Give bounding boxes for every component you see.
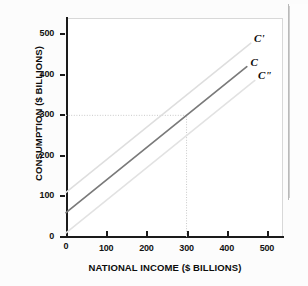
curve-label-c-double-prime: C" [258, 69, 271, 81]
x-tick-mark-400 [227, 231, 229, 237]
x-tick-label-100: 100 [90, 243, 122, 253]
y-tick-mark-0 [60, 236, 65, 238]
y-tick-mark-400 [60, 74, 65, 76]
figure-page: 5004003002001000 0100200300400500 C'CC" … [0, 0, 308, 286]
y-tick-label-0: 0 [24, 231, 54, 241]
x-axis-title: NATIONAL INCOME ($ BILLIONS) [50, 262, 280, 273]
x-tick-label-400: 400 [211, 243, 243, 253]
consumption-function-chart: 5004003002001000 0100200300400500 C'CC" … [0, 0, 288, 286]
series-line-0 [66, 43, 251, 192]
right-page-edge [289, 6, 290, 198]
x-tick-label-300: 300 [171, 243, 203, 253]
x-tick-mark-300 [187, 231, 189, 237]
series-line-2 [66, 80, 255, 232]
x-tick-mark-200 [146, 231, 148, 237]
y-tick-mark-100 [60, 195, 65, 197]
right-page-panel [288, 4, 308, 200]
x-tick-label-0: 0 [50, 241, 82, 251]
x-tick-mark-100 [106, 231, 108, 237]
curve-label-c-prime: C' [254, 32, 264, 44]
x-tick-mark-500 [267, 231, 269, 237]
plot-lines-layer [66, 18, 283, 237]
y-tick-mark-300 [60, 114, 65, 116]
y-tick-mark-200 [60, 155, 65, 157]
x-tick-label-500: 500 [251, 243, 283, 253]
curve-label-c: C [250, 56, 257, 68]
series-lines [66, 43, 255, 233]
y-axis-title: CONSUMPTION ($ BILLIONS) [33, 14, 44, 214]
y-tick-mark-500 [60, 33, 65, 35]
series-line-1 [66, 67, 247, 213]
x-tick-label-200: 200 [130, 243, 162, 253]
